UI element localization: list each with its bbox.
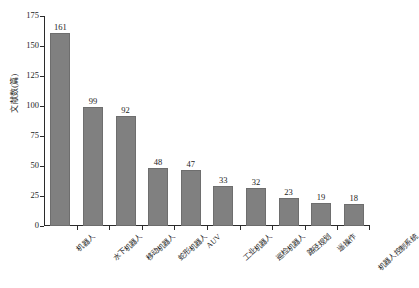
bar-value-label: 33 — [219, 175, 228, 185]
bar: 18 — [344, 204, 364, 226]
x-tick-mark — [142, 226, 143, 230]
y-tick-mark — [40, 166, 44, 167]
bar-value-label: 47 — [186, 159, 195, 169]
y-tick-mark — [40, 196, 44, 197]
bar: 32 — [246, 188, 266, 226]
x-tick-mark — [337, 226, 338, 230]
x-axis-label: 工业机器人 — [242, 232, 275, 263]
x-tick-mark — [305, 226, 306, 230]
bar-value-label: 161 — [54, 22, 67, 32]
y-tick-mark — [40, 226, 44, 227]
bar-value-label: 19 — [317, 192, 326, 202]
x-axis-label: 蛇形机器人 — [176, 232, 209, 263]
bar-value-label: 32 — [252, 177, 261, 187]
y-tick-label: 0 — [35, 220, 39, 231]
plot-area: 0255075100125150175 16199924847333223191… — [44, 16, 370, 226]
y-tick-label: 150 — [26, 40, 39, 51]
x-axis-label: 机器人 — [75, 232, 97, 253]
bar: 161 — [50, 33, 70, 226]
x-tick-mark — [207, 226, 208, 230]
bar: 48 — [148, 168, 168, 226]
x-tick-mark — [109, 226, 110, 230]
y-tick-label: 75 — [31, 130, 40, 141]
y-tick-label: 50 — [31, 160, 40, 171]
y-tick-mark — [40, 16, 44, 17]
bar-value-label: 99 — [89, 96, 98, 106]
y-tick-mark — [40, 136, 44, 137]
y-tick-mark — [40, 106, 44, 107]
y-tick-label: 25 — [31, 190, 40, 201]
bar-value-label: 92 — [121, 105, 130, 115]
x-tick-mark — [174, 226, 175, 230]
bar-value-label: 18 — [349, 193, 358, 203]
x-tick-mark — [240, 226, 241, 230]
x-axis-label: AUV — [204, 232, 223, 250]
bar: 47 — [181, 170, 201, 226]
y-axis-line — [44, 16, 45, 226]
y-tick-mark — [40, 76, 44, 77]
y-tick-label: 125 — [26, 70, 39, 81]
y-tick-mark — [40, 46, 44, 47]
bar: 23 — [279, 198, 299, 226]
x-axis-label: 巡检机器人 — [274, 232, 307, 263]
y-tick-label: 100 — [26, 100, 39, 111]
x-tick-mark — [369, 226, 370, 230]
x-axis-label: 机器人控制系统 — [376, 232, 419, 272]
bar: 19 — [311, 203, 331, 226]
bar-value-label: 48 — [154, 157, 163, 167]
y-axis-title: 文献数(篇) — [10, 57, 20, 129]
x-tick-mark — [272, 226, 273, 230]
bar: 33 — [213, 186, 233, 226]
x-axis-label: 移动机器人 — [144, 232, 177, 263]
x-axis-label: 水下机器人 — [111, 232, 144, 263]
bar: 99 — [83, 107, 103, 226]
y-tick-label: 175 — [26, 10, 39, 21]
x-tick-mark — [77, 226, 78, 230]
x-axis-label: 路径规划 — [305, 232, 332, 258]
bar: 92 — [116, 116, 136, 226]
bar-value-label: 23 — [284, 187, 293, 197]
x-axis-label: 遥操作 — [336, 232, 358, 253]
